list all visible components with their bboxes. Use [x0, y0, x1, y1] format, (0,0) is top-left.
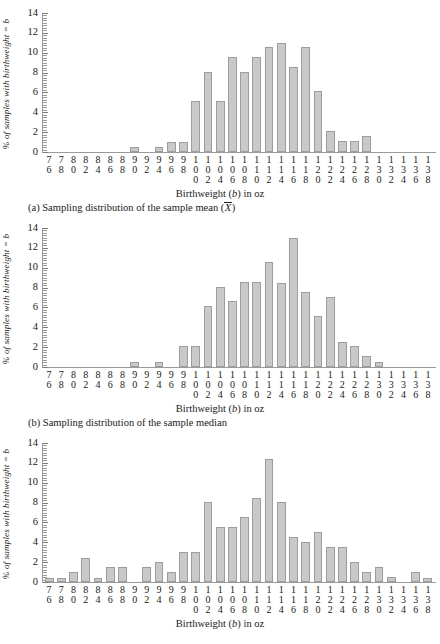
- bar: [142, 567, 151, 582]
- x-tick-label: 104: [214, 370, 226, 401]
- bar: [338, 547, 347, 582]
- x-axis-title: Birthweight (b) in oz: [0, 618, 440, 629]
- x-tick-label: 134: [397, 155, 409, 186]
- y-tick-label: 14: [22, 438, 38, 449]
- bar: [252, 498, 261, 582]
- x-tick-label: 136: [410, 370, 422, 401]
- x-tick-label: 76: [43, 155, 55, 175]
- x-tick-label: 76: [43, 585, 55, 605]
- bar: [265, 47, 274, 152]
- bar: [191, 552, 200, 582]
- bar: [362, 136, 371, 152]
- y-tick-label: 8: [22, 67, 38, 78]
- y-tick-label: 10: [22, 262, 38, 273]
- x-tick-label: 84: [92, 370, 104, 390]
- x-tick-label: 108: [239, 370, 251, 401]
- bar: [167, 572, 176, 582]
- x-tick-label: 108: [239, 155, 251, 186]
- x-tick-label: 100: [190, 370, 202, 401]
- bar: [289, 537, 298, 582]
- x-tick-label: 78: [55, 370, 67, 390]
- bar: [179, 346, 188, 367]
- bar: [375, 567, 384, 582]
- bar: [228, 527, 237, 582]
- x-tick-label: 116: [287, 585, 299, 616]
- x-tick-label: 98: [177, 155, 189, 175]
- bar: [326, 297, 335, 367]
- x-tick-label: 104: [214, 155, 226, 186]
- x-tick-label: 136: [410, 585, 422, 616]
- bar: [130, 147, 139, 152]
- x-tick-label: 134: [397, 585, 409, 616]
- x-tick-label: 106: [226, 585, 238, 616]
- bar: [252, 282, 261, 367]
- x-tick-label: 110: [251, 155, 263, 186]
- bar: [314, 316, 323, 367]
- bar: [350, 141, 359, 152]
- x-tick-label: 122: [324, 155, 336, 186]
- x-tick-label: 106: [226, 155, 238, 186]
- x-tick-label: 96: [165, 585, 177, 605]
- x-tick-label: 116: [287, 370, 299, 401]
- x-tick-label: 120: [312, 585, 324, 616]
- x-tick-label: 132: [385, 155, 397, 186]
- y-tick-label: 14: [22, 8, 38, 19]
- y-tick-label: 8: [22, 282, 38, 293]
- x-tick-label: 94: [153, 155, 165, 175]
- x-tick-label: 102: [202, 585, 214, 616]
- x-tick-label: 92: [141, 585, 153, 605]
- panel-caption: (b) Sampling distribution of the sample …: [28, 417, 227, 428]
- bar: [301, 47, 310, 152]
- x-tick-label: 86: [104, 370, 116, 390]
- bar: [118, 567, 127, 582]
- x-tick-label: 94: [153, 370, 165, 390]
- x-tick-label: 86: [104, 585, 116, 605]
- x-tick-label: 120: [312, 155, 324, 186]
- x-tick-label: 128: [361, 155, 373, 186]
- bar: [240, 517, 249, 582]
- bar: [216, 527, 225, 582]
- chart-panel-1: % of samples with birthweight = b0246810…: [0, 0, 440, 215]
- y-tick-label: 2: [22, 127, 38, 138]
- bars-group: [43, 443, 434, 582]
- x-tick-label: 126: [348, 585, 360, 616]
- x-tick-label: 114: [275, 155, 287, 186]
- x-tick-label: 118: [300, 585, 312, 616]
- bar: [167, 142, 176, 152]
- x-tick-label: 132: [385, 370, 397, 401]
- x-tick-label: 102: [202, 155, 214, 186]
- x-tick-label: 126: [348, 370, 360, 401]
- x-tick-label: 110: [251, 370, 263, 401]
- x-tick-label: 138: [422, 155, 434, 186]
- x-tick-label: 110: [251, 585, 263, 616]
- bar: [69, 572, 78, 582]
- y-tick-label: 12: [22, 27, 38, 38]
- x-tick-label: 82: [80, 585, 92, 605]
- x-tick-label: 78: [55, 155, 67, 175]
- y-axis-label: % of samples with birthweight = b: [0, 8, 13, 159]
- x-tick-label: 124: [336, 585, 348, 616]
- x-tick-label: 106: [226, 370, 238, 401]
- bar: [289, 238, 298, 367]
- x-tick-label: 92: [141, 370, 153, 390]
- x-tick-label: 98: [177, 585, 189, 605]
- x-axis-line: [42, 582, 436, 583]
- x-tick-label: 78: [55, 585, 67, 605]
- x-tick-label: 104: [214, 585, 226, 616]
- bar: [301, 292, 310, 367]
- bar: [350, 562, 359, 582]
- bar: [289, 67, 298, 152]
- y-tick-label: 0: [22, 577, 38, 588]
- bar: [45, 578, 54, 582]
- x-tick-label: 100: [190, 585, 202, 616]
- y-tick-label: 4: [22, 322, 38, 333]
- x-tick-label: 112: [263, 370, 275, 401]
- x-tick-label: 90: [129, 370, 141, 390]
- y-tick-label: 10: [22, 47, 38, 58]
- bar: [277, 283, 286, 367]
- y-tick-label: 0: [22, 362, 38, 373]
- y-tick-label: 6: [22, 302, 38, 313]
- bar: [155, 562, 164, 582]
- y-tick-label: 6: [22, 87, 38, 98]
- x-tick-label: 108: [239, 585, 251, 616]
